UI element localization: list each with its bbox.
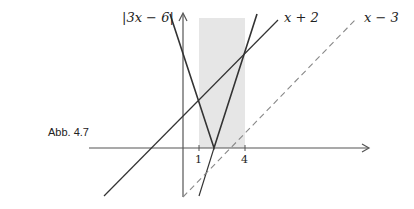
label-x-minus-3: x − 3 <box>364 10 399 25</box>
tick-label-4: 4 <box>241 153 248 166</box>
label-abs: |3x − 6| <box>122 10 174 25</box>
line-x-plus-2 <box>104 20 278 196</box>
shaded-interval <box>199 18 245 148</box>
tick-label-1: 1 <box>195 153 202 166</box>
graph: 1 4 |3x − 6| x + 2 x − 3 <box>0 0 414 209</box>
label-x-plus-2: x + 2 <box>284 10 319 25</box>
